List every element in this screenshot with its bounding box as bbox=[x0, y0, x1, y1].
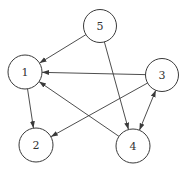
edge-1-to-2 bbox=[28, 89, 34, 128]
node-2: 2 bbox=[19, 128, 53, 162]
edge-5-to-1 bbox=[39, 35, 85, 63]
node-1: 1 bbox=[8, 55, 42, 89]
node-5: 5 bbox=[84, 10, 117, 43]
node-label: 3 bbox=[159, 69, 166, 82]
node-label: 5 bbox=[97, 20, 104, 33]
node-3: 3 bbox=[146, 59, 179, 92]
directed-graph-diagram: 12345 bbox=[0, 0, 186, 172]
edges-layer bbox=[28, 35, 156, 137]
node-4: 4 bbox=[116, 129, 150, 163]
edge-3-both-4 bbox=[139, 90, 155, 130]
edge-4-to-1 bbox=[39, 82, 119, 137]
nodes-layer: 12345 bbox=[8, 10, 179, 164]
edge-3-to-1 bbox=[42, 72, 146, 74]
edge-5-to-4 bbox=[104, 42, 128, 130]
node-label: 4 bbox=[130, 140, 137, 153]
node-label: 1 bbox=[22, 66, 29, 79]
node-label: 2 bbox=[33, 139, 40, 152]
